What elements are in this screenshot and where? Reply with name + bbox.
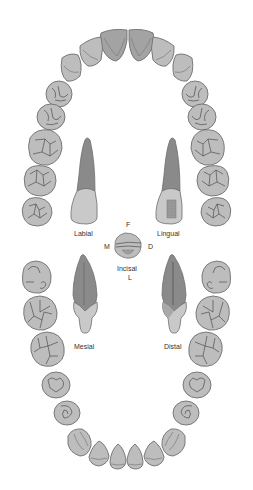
dental-arches-graphic: .t { fill: #bdbdbd; stroke: #6e6e6e; str… bbox=[0, 0, 253, 490]
tooth-lower-canine-left bbox=[68, 429, 91, 456]
tooth-lower-third-molar-right bbox=[202, 261, 231, 293]
label-facial-f: F bbox=[126, 221, 130, 228]
label-labial: Labial bbox=[74, 230, 93, 237]
tooth-upper-second-premolar-left bbox=[37, 104, 65, 130]
mesial-view-tooth bbox=[73, 255, 97, 334]
tooth-lower-lateral-incisor-left bbox=[89, 441, 109, 466]
tooth-lower-second-molar-right bbox=[196, 296, 229, 330]
tooth-lower-first-molar-right bbox=[189, 332, 223, 366]
tooth-upper-third-molar-left bbox=[22, 198, 52, 226]
tooth-lower-second-premolar-left bbox=[42, 372, 70, 398]
lingual-view-tooth bbox=[156, 138, 182, 224]
tooth-upper-second-premolar-right bbox=[188, 104, 216, 130]
tooth-upper-lateral-incisor-right bbox=[152, 37, 175, 66]
label-lingual-l: L bbox=[128, 274, 132, 281]
label-incisal: Incisal bbox=[117, 265, 137, 272]
label-mesial-m: M bbox=[104, 243, 110, 250]
maxillary-arch bbox=[22, 29, 231, 226]
tooth-lower-central-incisor-right bbox=[127, 444, 143, 469]
mandibular-arch bbox=[23, 261, 231, 469]
tooth-lower-canine-right bbox=[162, 429, 185, 456]
label-lingual: Lingual bbox=[157, 230, 180, 237]
tooth-upper-second-molar-right bbox=[197, 166, 229, 196]
label-mesial: Mesial bbox=[74, 343, 94, 350]
labial-view-tooth bbox=[71, 138, 97, 224]
tooth-upper-central-incisor-left bbox=[100, 29, 127, 61]
label-distal: Distal bbox=[164, 343, 182, 350]
tooth-upper-second-molar-left bbox=[24, 166, 56, 196]
incisal-view-tooth bbox=[115, 233, 141, 258]
tooth-lower-second-premolar-right bbox=[183, 372, 211, 398]
tooth-lower-central-incisor-left bbox=[110, 444, 126, 469]
tooth-lower-first-premolar-right bbox=[173, 401, 199, 425]
distal-view-tooth bbox=[162, 255, 186, 334]
label-distal-d: D bbox=[148, 243, 153, 250]
tooth-lower-second-molar-left bbox=[24, 296, 57, 330]
tooth-upper-third-molar-right bbox=[201, 198, 231, 226]
tooth-lower-lateral-incisor-right bbox=[144, 441, 164, 466]
tooth-upper-lateral-incisor-left bbox=[80, 37, 103, 66]
tooth-lower-first-premolar-left bbox=[54, 401, 80, 425]
tooth-lower-first-molar-left bbox=[31, 332, 65, 366]
tooth-upper-first-premolar-left bbox=[46, 81, 72, 107]
tooth-upper-first-molar-left bbox=[29, 130, 63, 165]
tooth-upper-first-premolar-right bbox=[182, 81, 208, 107]
tooth-upper-canine-left bbox=[61, 54, 81, 81]
tooth-upper-central-incisor-right bbox=[129, 29, 154, 61]
tooth-lower-third-molar-left bbox=[23, 261, 52, 293]
tooth-upper-first-molar-right bbox=[191, 130, 224, 165]
tooth-upper-canine-right bbox=[173, 54, 193, 81]
dental-diagram: .t { fill: #bdbdbd; stroke: #6e6e6e; str… bbox=[0, 0, 253, 490]
